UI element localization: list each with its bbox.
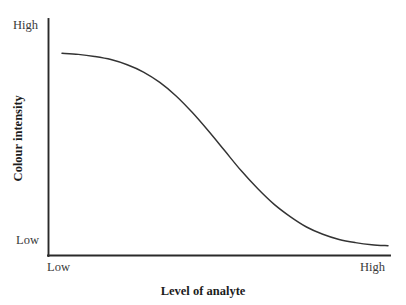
x-axis-tick-high: High [360,261,385,274]
x-axis-tick-low: Low [47,261,70,274]
y-axis-tick-high: High [13,19,38,32]
colour-intensity-curve [62,53,388,245]
chart-figure: High Low Low High Colour intensity Level… [0,0,406,305]
x-axis-title: Level of analyte [0,285,406,298]
y-axis-tick-low: Low [16,234,39,247]
y-axis-title: Colour intensity [12,78,25,198]
